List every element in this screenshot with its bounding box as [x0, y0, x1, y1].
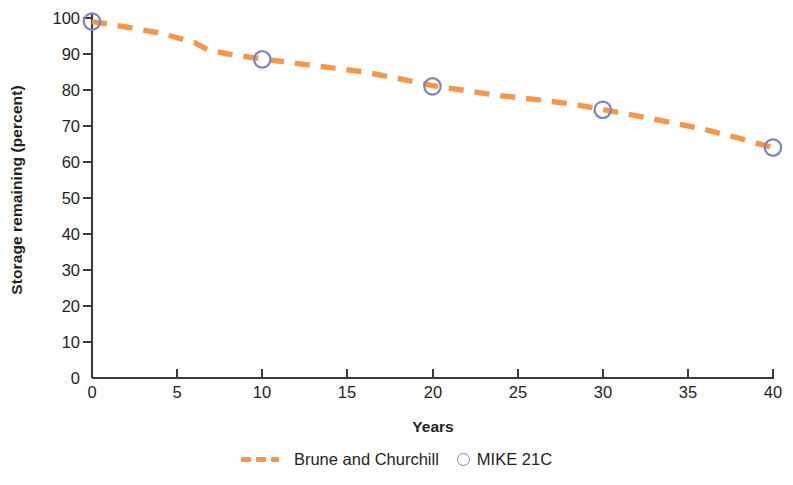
- x-tick-label: 15: [317, 384, 377, 401]
- x-tick-label: 10: [232, 384, 292, 401]
- open-circle-swatch-icon: [457, 453, 470, 466]
- y-axis-ticks: [83, 18, 92, 342]
- x-tick-label: 5: [147, 384, 207, 401]
- x-tick-label: 0: [62, 384, 122, 401]
- x-tick-label: 20: [403, 384, 463, 401]
- chart-legend: Brune and Churchill MIKE 21C: [0, 450, 793, 469]
- legend-entry-mike-21c: MIKE 21C: [457, 450, 552, 469]
- legend-entry-brune-and-churchill: Brune and Churchill: [241, 450, 439, 469]
- x-axis-tick-labels: 0 5 10 15 20 25 30 35 40: [0, 384, 793, 412]
- x-tick-label: 30: [573, 384, 633, 401]
- plot-canvas: [0, 0, 793, 485]
- dashed-line-swatch-icon: [241, 457, 287, 462]
- x-axis-ticks: [92, 369, 773, 378]
- x-tick-label: 25: [488, 384, 548, 401]
- legend-label: Brune and Churchill: [294, 450, 439, 469]
- x-tick-label: 35: [658, 384, 718, 401]
- series-brune-and-churchill-line: [92, 22, 773, 148]
- x-axis-title: Years: [92, 418, 774, 436]
- x-tick-label: 40: [743, 384, 793, 401]
- legend-label: MIKE 21C: [477, 450, 552, 469]
- chart-figure: Storage remaining (percent) 100 90 80 70…: [0, 0, 793, 485]
